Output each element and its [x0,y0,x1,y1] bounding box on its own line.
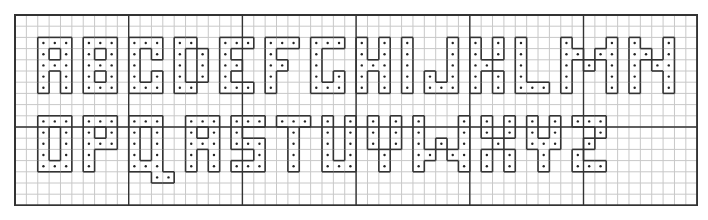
stitch-dot [315,64,317,66]
stitch-dot [633,53,635,55]
stitch-dot [292,154,294,156]
stitch-dot [88,143,90,145]
stitch-dot [236,165,238,167]
stitch-dot [543,165,545,167]
stitch-dot [247,120,249,122]
stitch-dot [65,143,67,145]
stitch-dot [258,154,260,156]
stitch-dot [270,87,272,89]
stitch-dot [247,87,249,89]
stitch-dot [65,42,67,44]
stitch-dot [338,75,340,77]
stitch-dot [156,176,158,178]
stitch-dot [486,154,488,156]
stitch-dot [258,143,260,145]
stitch-dot [668,53,670,55]
stitch-dot [292,165,294,167]
stitch-dot [497,143,499,145]
stitch-dot [156,154,158,156]
letter-c [129,37,163,93]
stitch-dot [588,143,590,145]
stitch-dot [179,64,181,66]
stitch-dot [99,120,101,122]
stitch-dot [486,131,488,133]
stitch-dot [65,64,67,66]
letter-u [322,116,356,172]
stitch-dot [213,154,215,156]
stitch-dot [156,53,158,55]
stitch-dot [520,87,522,89]
stitch-dot [179,75,181,77]
stitch-dot [315,53,317,55]
stitch-dot [258,165,260,167]
letter-z [572,116,606,172]
stitch-dot [247,42,249,44]
stitch-dot [452,64,454,66]
stitch-dot [611,42,613,44]
stitch-dot [383,87,385,89]
stitch-dot [452,42,454,44]
stitch-dot [88,165,90,167]
letter-x [481,116,515,172]
stitch-dot [383,42,385,44]
stitch-dot [417,131,419,133]
stitch-dot [326,42,328,44]
stitch-dot [167,176,169,178]
stitch-dot [554,120,556,122]
stitch-dot [543,87,545,89]
stitch-dot [463,131,465,133]
stitch-dot [42,75,44,77]
stitch-dot [406,64,408,66]
stitch-dot [463,165,465,167]
stitch-dot [42,120,44,122]
stitch-dot [213,165,215,167]
stitch-dot [88,154,90,156]
stitch-dot [270,64,272,66]
stitch-dot [372,120,374,122]
stitch-dot [554,131,556,133]
stitch-dot [395,120,397,122]
stitch-dot [65,87,67,89]
letter-b [83,37,117,93]
stitch-dot [406,87,408,89]
stitch-dot [65,131,67,133]
stitch-dot [599,131,601,133]
letter-k [470,37,504,93]
stitch-dot [156,87,158,89]
stitch-dot [65,154,67,156]
stitch-dot [201,120,203,122]
stitch-dot [565,64,567,66]
stitch-dot [42,131,44,133]
stitch-dot [326,131,328,133]
stitch-dot [326,165,328,167]
stitch-dot [65,165,67,167]
stitch-dot [236,42,238,44]
stitch-dot [213,120,215,122]
stitch-dot [577,154,579,156]
stitch-dot [236,120,238,122]
letter-m [561,37,618,93]
stitch-dot [497,87,499,89]
letter-w [413,116,470,172]
stitch-dot [190,120,192,122]
stitch-dot [372,64,374,66]
stitch-dot [190,143,192,145]
stitch-dot [531,131,533,133]
stitch-dot [133,154,135,156]
stitch-dot [406,53,408,55]
stitch-dot [645,53,647,55]
stitch-dot [201,143,203,145]
letter-j [424,37,458,93]
letter-f [265,37,299,93]
stitch-dot [156,120,158,122]
stitch-dot [577,53,579,55]
letter-i [402,37,413,93]
stitch-dot [133,42,135,44]
stitch-dot [224,64,226,66]
stitch-dot [133,75,135,77]
stitch-dot [508,120,510,122]
stitch-dot [417,154,419,156]
stitch-dot [599,53,601,55]
stitch-dot [474,42,476,44]
stitch-dot [633,64,635,66]
